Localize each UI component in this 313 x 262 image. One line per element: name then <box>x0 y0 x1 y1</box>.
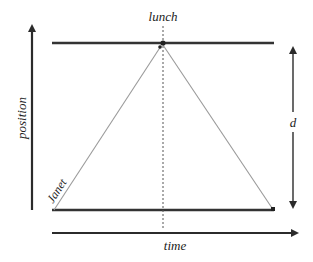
distance-label: d <box>290 115 297 130</box>
return-endpoint-marker <box>271 207 275 211</box>
lunch-event-dot <box>160 40 165 45</box>
lunch-arrival-dot <box>158 45 162 49</box>
time-axis-label: time <box>164 238 187 253</box>
janet-label: Janet <box>44 176 70 206</box>
position-axis-label: position <box>14 97 29 140</box>
janet-return-worldline <box>163 45 272 208</box>
janet-outbound-worldline <box>54 46 161 210</box>
lunch-label: lunch <box>149 9 178 24</box>
position-time-diagram: position time lunch Janet d <box>0 0 313 262</box>
